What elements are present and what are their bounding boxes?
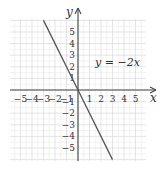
x-tick-label: 4 <box>121 94 127 104</box>
coordinate-plane: −5−4−3−2−11234554321−1−2−3−4−5 x y y = −… <box>0 0 166 176</box>
y-tick-label: −1 <box>62 97 75 107</box>
y-tick-label: −2 <box>62 108 75 118</box>
x-tick-label: 5 <box>133 94 139 104</box>
y-tick-label: 3 <box>69 50 75 60</box>
x-tick-label: 1 <box>87 94 93 104</box>
y-tick-label: −5 <box>62 143 76 153</box>
y-tick-label: −3 <box>62 120 76 130</box>
x-axis-label: x <box>150 91 157 105</box>
equation-label: y = −2x <box>94 56 141 69</box>
y-tick-label: 4 <box>69 39 75 49</box>
x-tick-label: 3 <box>110 94 116 104</box>
x-tick-label: 2 <box>98 94 104 104</box>
y-axis-label: y <box>65 5 73 19</box>
y-tick-label: 5 <box>69 27 75 37</box>
y-tick-label: −4 <box>62 131 76 141</box>
y-tick-label: 2 <box>69 62 75 72</box>
